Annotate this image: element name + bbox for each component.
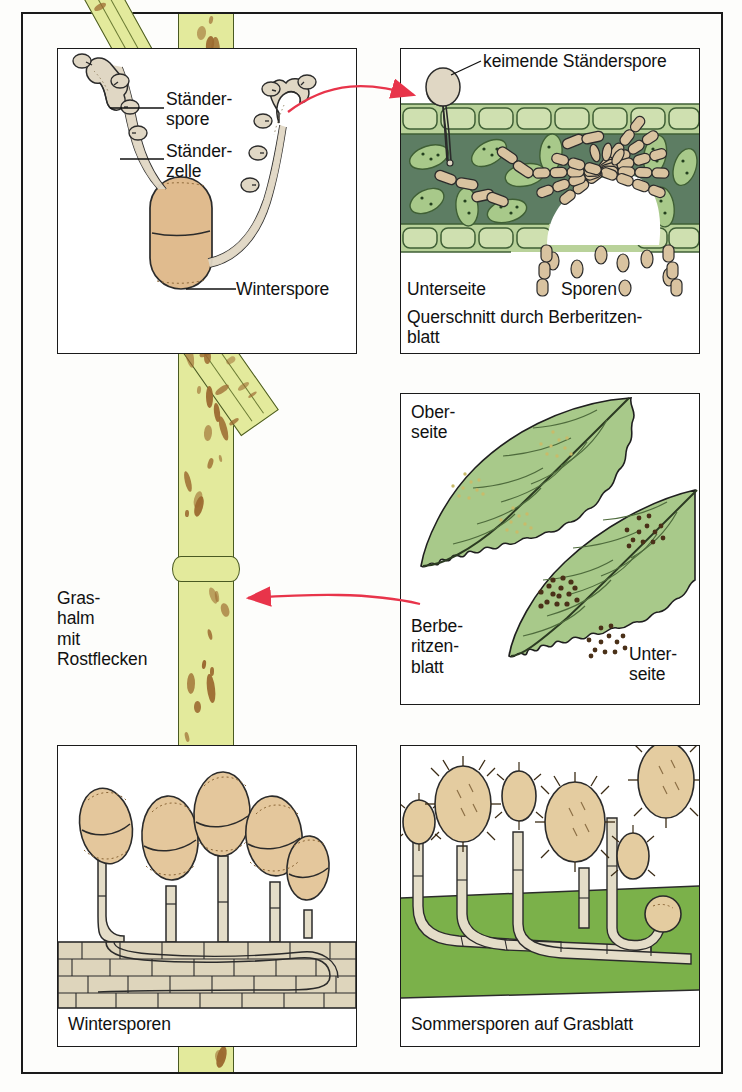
label-winterspore: Winterspore <box>236 279 329 299</box>
sporen-legend-glyph <box>619 280 631 296</box>
label-berberitzenblatt: Berbe- ritzen- blatt <box>411 616 463 677</box>
stem-tissue <box>58 942 356 1008</box>
caption-winterspores: Wintersporen <box>68 1014 171 1034</box>
grass-stalk-label: Gras- halm mit Rostflecken <box>57 588 207 669</box>
label-unterseite-crosssection: Unterseite <box>407 279 486 299</box>
winterspores-drawing <box>58 746 356 1046</box>
rust-fleck <box>185 510 189 517</box>
rust-fleck <box>194 701 201 713</box>
panel-summerspores: Sommersporen auf Grasblatt <box>400 745 700 1047</box>
panel-basidium: Ständer- spore Ständer- zelle Winterspor… <box>57 48 357 354</box>
summerspores-drawing <box>401 746 699 1046</box>
panel-winterspores: Wintersporen <box>57 745 357 1047</box>
stalk-node <box>172 556 240 582</box>
label-keimende-staenderspore: keimende Ständerspore <box>483 51 667 71</box>
panel-cross-section: keimende Ständerspore Unterseite Sporen … <box>400 48 700 354</box>
label-staenderzelle: Ständer- zelle <box>166 141 232 182</box>
promycelium-left <box>73 54 166 189</box>
caption-cross-section: Querschnitt durch Berberitzen- blatt <box>407 307 642 348</box>
rust-fleck <box>226 356 237 366</box>
rust-fleck <box>214 382 231 396</box>
rust-fleck <box>206 386 213 408</box>
leader-keimende <box>451 61 481 75</box>
panel-barberry-leaves: Ober- seite Berbe- ritzen- blatt Unter- … <box>400 393 700 705</box>
label-oberseite: Ober- seite <box>411 402 455 443</box>
winterspore-heads <box>74 771 331 901</box>
caption-summerspores: Sommersporen auf Grasblatt <box>411 1014 633 1034</box>
label-unterseite-leaf: Unter- seite <box>629 644 677 685</box>
label-staenderspore: Ständer- spore <box>166 89 232 130</box>
winterspore-shape <box>150 177 212 289</box>
label-sporen: Sporen <box>561 279 617 299</box>
figure-root: Gras- halm mit Rostflecken <box>0 0 742 1092</box>
rust-fleck <box>228 417 240 427</box>
